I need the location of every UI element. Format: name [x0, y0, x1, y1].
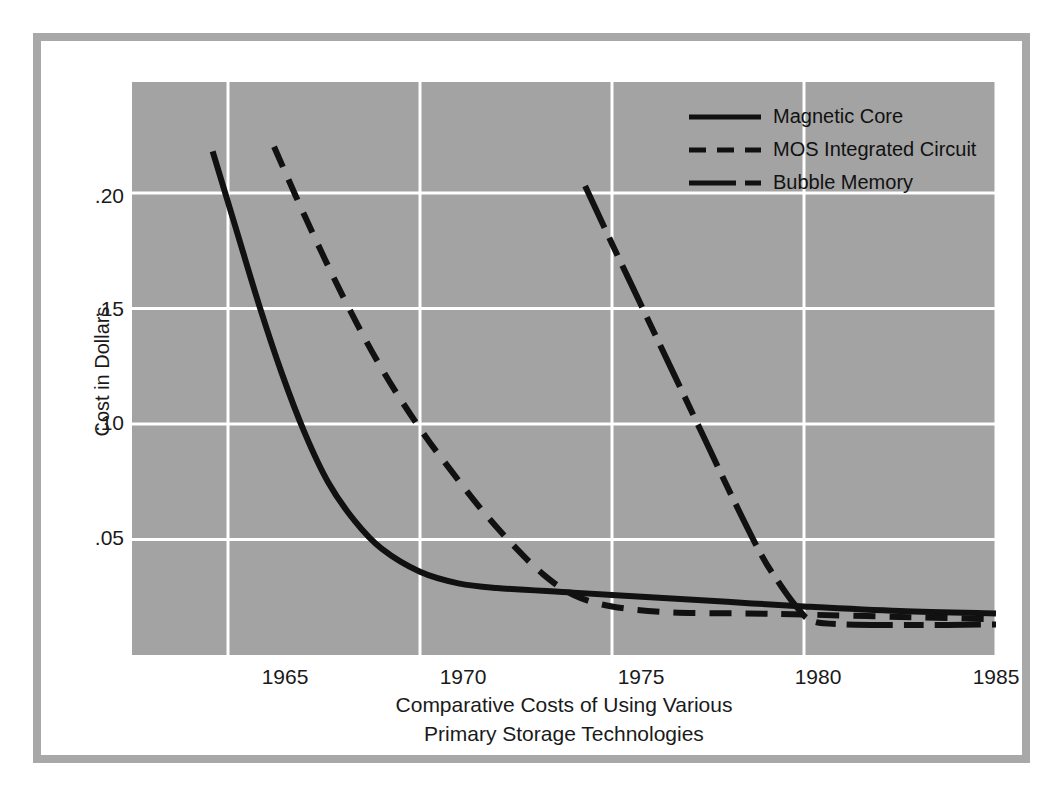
legend-label-magnetic-core: Magnetic Core [773, 105, 903, 128]
caption-line-2: Primary Storage Technologies [132, 719, 996, 748]
xtick-label-1980: 1980 [773, 665, 863, 689]
chart-page: .20 .15 .10 .05 Cost in Dollars 1965 197… [0, 0, 1060, 785]
legend-label-bubble-memory: Bubble Memory [773, 171, 913, 194]
xtick-label-1965: 1965 [240, 665, 330, 689]
chart-legend: Magnetic Core MOS Integrated Circuit Bub… [688, 100, 988, 199]
ytick-label-05: .05 [60, 526, 124, 550]
legend-label-mos-integrated-circuit: MOS Integrated Circuit [773, 138, 976, 161]
legend-swatch-long-dash-short-dash-icon [688, 176, 762, 190]
figure-container: .20 .15 .10 .05 Cost in Dollars 1965 197… [0, 0, 1060, 785]
legend-item-mos-integrated-circuit: MOS Integrated Circuit [688, 133, 988, 166]
legend-swatch-dashed-icon [688, 143, 762, 157]
xtick-label-1985: 1985 [951, 665, 1041, 689]
xtick-label-1975: 1975 [596, 665, 686, 689]
legend-item-bubble-memory: Bubble Memory [688, 166, 988, 199]
figure-caption: Comparative Costs of Using Various Prima… [132, 690, 996, 748]
legend-swatch-solid-icon [688, 110, 762, 124]
xtick-label-1970: 1970 [418, 665, 508, 689]
y-axis-title: Cost in Dollars [91, 252, 114, 492]
ytick-label-20: .20 [60, 184, 124, 208]
caption-line-1: Comparative Costs of Using Various [132, 690, 996, 719]
legend-item-magnetic-core: Magnetic Core [688, 100, 988, 133]
